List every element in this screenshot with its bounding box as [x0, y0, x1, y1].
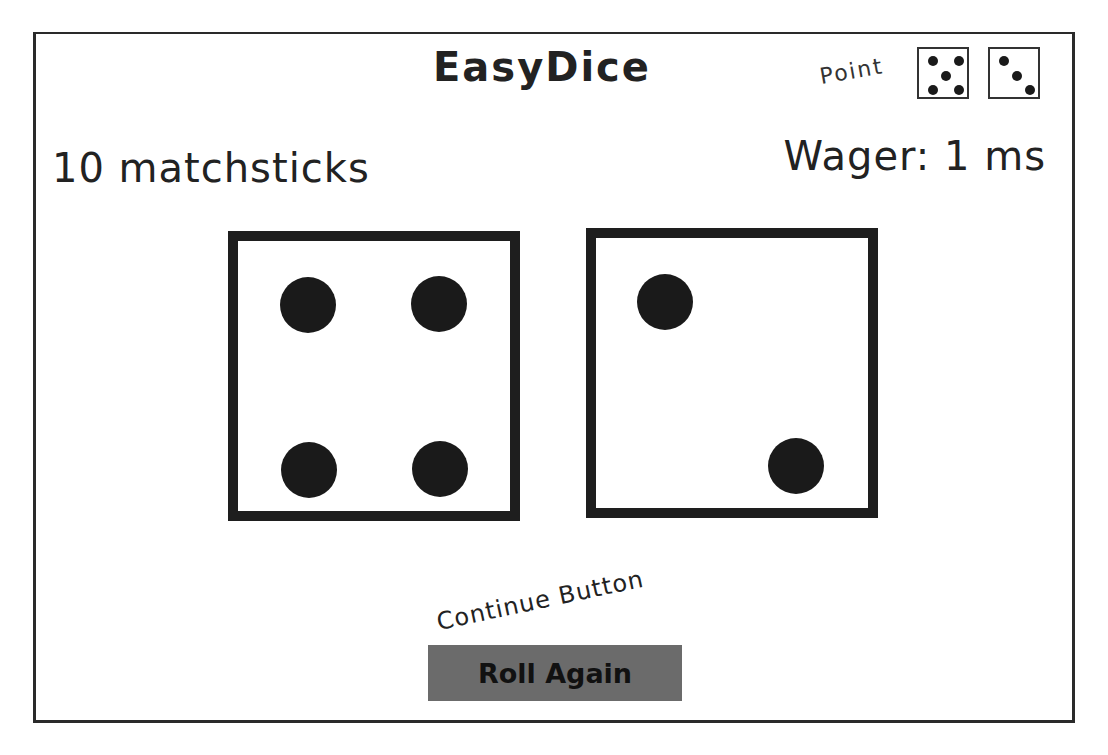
pip — [411, 276, 467, 332]
pip — [928, 56, 938, 66]
pip — [280, 277, 336, 333]
roll-again-button[interactable]: Roll Again — [428, 645, 682, 701]
pip — [637, 274, 693, 330]
pip — [941, 71, 951, 81]
rolled-die-2-two-icon — [586, 228, 878, 518]
wager-amount: Wager: 1 ms — [784, 133, 1046, 179]
pip — [412, 441, 468, 497]
point-die-1-five-icon — [917, 47, 969, 99]
pip — [954, 56, 964, 66]
matchstick-balance: 10 matchsticks — [52, 145, 370, 191]
point-die-2-three-icon — [988, 47, 1040, 99]
pip — [768, 438, 824, 494]
pip — [999, 56, 1009, 66]
pip — [1012, 71, 1022, 81]
pip — [281, 442, 337, 498]
rolled-die-1-four-icon — [228, 231, 520, 521]
app-title: EasyDice — [433, 44, 651, 90]
pip — [1025, 85, 1035, 95]
pip — [928, 85, 938, 95]
pip — [954, 85, 964, 95]
